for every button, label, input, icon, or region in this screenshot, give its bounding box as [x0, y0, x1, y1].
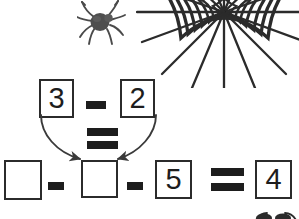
spider-web-icon: [136, 0, 299, 88]
top-operand-2-box: 2: [120, 79, 155, 118]
top-operand-2-value: 2: [129, 84, 145, 113]
top-minus-operator: [86, 101, 106, 109]
bottom-minus-operator-2: [127, 182, 143, 190]
bottom-operand-3-value: 5: [165, 165, 181, 194]
bottom-blank-1-box[interactable]: [4, 160, 42, 200]
bottom-operand-3-box: 5: [155, 160, 192, 199]
top-operand-1-box: 3: [39, 79, 74, 118]
worksheet-canvas: 3 2 5 4: [0, 0, 299, 219]
spider-bottom-icon: [252, 203, 299, 219]
bottom-answer-box: 4: [255, 160, 292, 199]
equals-bar-upper: [211, 168, 244, 176]
top-operand-1-value: 3: [48, 84, 64, 113]
bottom-equals-operator: [211, 168, 244, 191]
equals-bar-lower: [211, 183, 244, 191]
bottom-minus-operator-1: [48, 182, 64, 190]
bottom-blank-2-box[interactable]: [81, 160, 118, 198]
spider-icon: [77, 0, 127, 46]
bottom-answer-value: 4: [265, 165, 281, 194]
answer-transfer-arrows: [38, 114, 163, 166]
